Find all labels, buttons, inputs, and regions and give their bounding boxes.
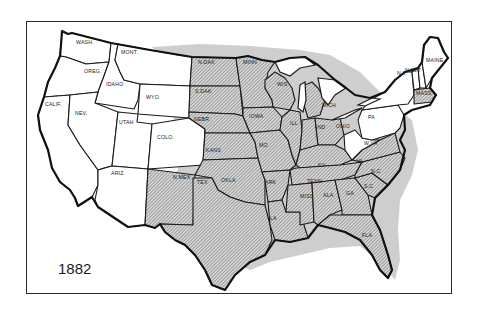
label-nev: NEV. <box>75 110 87 116</box>
label-tenn: TENN <box>307 178 322 184</box>
label-wash: WASH. <box>76 39 94 45</box>
label-wva: W.VA <box>364 140 378 146</box>
label-idaho: IDAHO <box>106 81 123 87</box>
label-sdak: S.DAK <box>195 88 212 94</box>
label-minn: MINN <box>243 59 257 65</box>
label-ill: ILL <box>290 120 298 126</box>
label-mont: MONT. <box>121 49 138 55</box>
label-wis: WIS <box>277 81 288 87</box>
label-utah: UTAH <box>119 119 134 125</box>
label-mass: MASS <box>416 90 432 96</box>
label-nebr: NEBR. <box>194 116 211 122</box>
label-wyo: WYO. <box>146 94 161 100</box>
state-iowa <box>243 107 282 133</box>
label-la: LA <box>270 215 277 221</box>
state-wyo <box>138 84 190 118</box>
label-iowa: IOWA <box>249 113 264 119</box>
label-okla: OKLA <box>221 177 236 183</box>
label-ala: ALA <box>323 192 334 198</box>
label-calif: CALIF. <box>45 101 62 107</box>
label-ky: KY <box>318 162 326 168</box>
label-nh: N.H. <box>405 67 416 73</box>
label-colo: COLO. <box>157 134 174 140</box>
label-ga: GA <box>346 190 354 196</box>
label-oreg: OREG. <box>84 68 102 74</box>
label-mo: MO <box>259 142 268 148</box>
label-ark: ARK <box>265 179 277 185</box>
label-maine: MAINE <box>426 57 444 63</box>
label-va: VA <box>356 158 363 164</box>
label-kans: KANS <box>206 147 221 153</box>
label-ohio: OHIO <box>336 123 350 129</box>
label-nc: N.C <box>371 168 381 174</box>
label-sc: S.C <box>364 183 373 189</box>
label-pa: PA <box>368 114 375 120</box>
label-fla: FLA <box>362 232 372 238</box>
label-nmex: N.MEX <box>173 174 191 180</box>
label-ariz: ARIZ. <box>111 170 125 176</box>
label-ndak: N.DAK <box>198 59 215 65</box>
year-label: 1882 <box>58 260 91 277</box>
label-mich: MICH <box>322 102 336 108</box>
label-tex: TEX <box>197 179 208 185</box>
state-colo <box>148 118 205 169</box>
label-miss: MISS <box>300 193 314 199</box>
label-ind: IND <box>316 124 326 130</box>
